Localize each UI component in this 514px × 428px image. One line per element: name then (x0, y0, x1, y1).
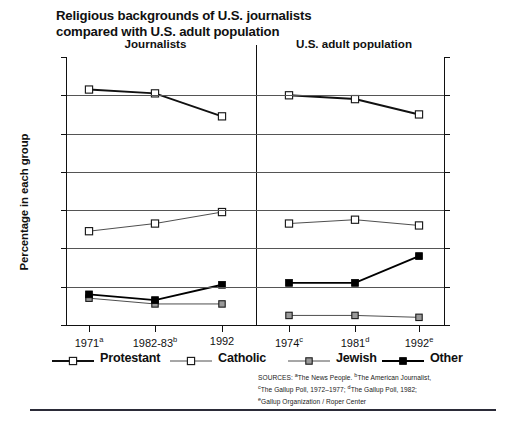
x-tick-label-2-1: 1974c (275, 335, 303, 349)
marker-other-panel2-pt2 (352, 279, 359, 286)
marker-jewish-panel1-pt3 (219, 301, 225, 307)
marker-catholic-panel1-pt1 (85, 228, 92, 235)
legend-marker-catholic (187, 357, 194, 364)
legend-swatch-protestant (52, 354, 94, 368)
marker-protestant-panel1-pt1 (85, 86, 92, 93)
gridline-60 (67, 95, 444, 96)
marker-catholic-panel2-pt1 (285, 220, 292, 227)
x-tick-label-1-1: 1971a (75, 335, 104, 349)
legend-label-protestant: Protestant (100, 351, 160, 365)
x-tick-2-1 (289, 325, 290, 332)
legend-marker-other (400, 358, 407, 365)
y-tick-left-40 (61, 172, 67, 173)
marker-other-panel2-pt1 (286, 279, 293, 286)
legend-swatch-other (382, 354, 424, 368)
legend-label-catholic: Catholic (218, 351, 266, 365)
legend-marker-protestant (69, 357, 76, 364)
y-tick-right-0 (444, 325, 450, 326)
marker-catholic-panel2-pt3 (415, 222, 422, 229)
y-tick-left-50 (61, 134, 67, 135)
chart-title-line2: compared with U.S. adult population (56, 24, 476, 40)
gridline-50 (67, 134, 444, 135)
marker-other-panel1-pt2 (152, 297, 159, 304)
chart-legend: ProtestantCatholicJewishOther (52, 352, 472, 372)
x-tick-sup-1-2: b (173, 335, 177, 344)
legend-swatch-jewish (288, 354, 330, 368)
x-tick-2-3 (419, 325, 420, 332)
y-tick-right-20 (444, 248, 450, 249)
legend-swatch-catholic (170, 354, 212, 368)
y-tick-left-30 (61, 210, 67, 211)
chart-title: Religious backgrounds of U.S. journalist… (56, 8, 476, 40)
sources-note: SOURCES: aThe News People. bThe American… (258, 371, 510, 406)
y-tick-right-40 (444, 172, 450, 173)
gridline-30 (67, 210, 444, 211)
marker-protestant-panel1-pt3 (218, 113, 225, 120)
marker-other-panel1-pt1 (86, 291, 93, 298)
y-tick-left-0 (61, 325, 67, 326)
sources-ref-e: Gallup Organization / Roper Center (261, 398, 366, 405)
x-tick-1-3 (222, 325, 223, 332)
gridline-20 (67, 248, 444, 249)
marker-jewish-panel2-pt3 (416, 314, 422, 320)
legend-marker-jewish (306, 358, 312, 364)
sources-ref-a: The News People. (298, 374, 355, 381)
marker-protestant-panel2-pt3 (415, 111, 422, 118)
gridline-40 (67, 172, 444, 173)
x-tick-sup-2-1: c (299, 335, 303, 344)
marker-catholic-panel2-pt2 (351, 216, 358, 223)
line-other-panel2 (289, 256, 419, 283)
gridline-0 (67, 325, 444, 326)
sources-ref-c: The Gallup Poll, 1972–1977; (261, 386, 348, 393)
legend-label-other: Other (430, 351, 463, 365)
chart-figure: Religious backgrounds of U.S. journalist… (0, 0, 514, 428)
panel-title-2: U.S. adult population (296, 37, 412, 50)
chart-title-line1: Religious backgrounds of U.S. journalist… (56, 8, 311, 23)
y-tick-left-10 (61, 287, 67, 288)
x-tick-label-2-2: 1981d (341, 335, 370, 349)
x-tick-label-1-3: 1992 (210, 335, 234, 347)
x-tick-2-2 (355, 325, 356, 332)
y-tick-left-60 (61, 95, 67, 96)
y-tick-right-60 (444, 95, 450, 96)
marker-other-panel2-pt3 (416, 253, 423, 260)
y-tick-right-10 (444, 287, 450, 288)
x-tick-sup-1-1: a (99, 335, 103, 344)
bottom-divider (30, 409, 496, 411)
y-tick-left-70 (61, 57, 67, 58)
x-tick-label-1-2: 1982-83b (133, 335, 178, 349)
plot-area: 707060605050404030302020101000Journalist… (66, 57, 445, 325)
series-lines (67, 57, 444, 325)
y-tick-left-20 (61, 248, 67, 249)
x-tick-label-2-3: 1992e (405, 335, 434, 349)
x-tick-sup-2-2: d (365, 335, 369, 344)
gridline-10 (67, 287, 444, 288)
sources-ref-d: The Gallup Poll, 1982; (351, 386, 417, 393)
x-tick-1-2 (155, 325, 156, 332)
marker-catholic-panel1-pt2 (151, 220, 158, 227)
x-tick-sup-2-3: e (429, 335, 433, 344)
legend-label-jewish: Jewish (336, 351, 377, 365)
panel-title-1: Journalists (125, 37, 187, 50)
marker-protestant-panel2-pt2 (351, 96, 358, 103)
y-tick-right-70 (444, 57, 450, 58)
y-tick-right-50 (444, 134, 450, 135)
x-tick-1-1 (89, 325, 90, 332)
marker-jewish-panel2-pt1 (286, 312, 292, 318)
marker-jewish-panel2-pt2 (352, 312, 358, 318)
y-axis-label: Percentage in each group (18, 92, 30, 312)
sources-ref-b: The American Journalist, (357, 374, 431, 381)
sources-label: SOURCES: (258, 374, 295, 381)
y-tick-right-30 (444, 210, 450, 211)
